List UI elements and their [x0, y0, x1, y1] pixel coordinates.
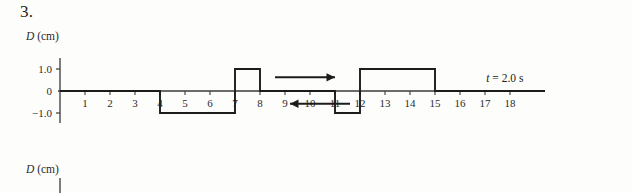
- x-tick-label: 8: [257, 97, 263, 109]
- x-tick-label: 9: [282, 97, 288, 109]
- waveform-figure: 1.00−1.0123456789101112131415161718t = 2…: [0, 0, 632, 193]
- figure-page: 3. D (cm) D (cm) 1.00−1.0123456789101112…: [0, 0, 632, 193]
- x-tick-label: 1: [82, 97, 88, 109]
- x-tick-label: 13: [380, 97, 392, 109]
- x-tick-label: 3: [132, 97, 138, 109]
- right-arrow-head: [327, 73, 336, 81]
- chart-root: 1.00−1.0123456789101112131415161718t = 2…: [32, 58, 545, 193]
- x-tick-label: 16: [455, 97, 467, 109]
- y-tick-label: 1.0: [38, 63, 52, 75]
- time-annotation: t = 2.0 s: [486, 72, 524, 84]
- y-tick-label: 0: [47, 85, 53, 97]
- x-tick-label: 2: [107, 97, 113, 109]
- x-tick-label: 6: [207, 97, 213, 109]
- right-arrow: [275, 73, 335, 81]
- x-tick-label: 14: [405, 97, 417, 109]
- x-tick-label: 17: [480, 97, 492, 109]
- x-tick-label: 5: [182, 97, 188, 109]
- left-arrow-head: [290, 100, 299, 108]
- x-tick-label: 18: [505, 97, 517, 109]
- x-tick-label: 15: [430, 97, 442, 109]
- y-tick-label: −1.0: [32, 107, 52, 119]
- time-annotation-value: = 2.0 s: [489, 72, 523, 84]
- left-arrow: [290, 100, 350, 108]
